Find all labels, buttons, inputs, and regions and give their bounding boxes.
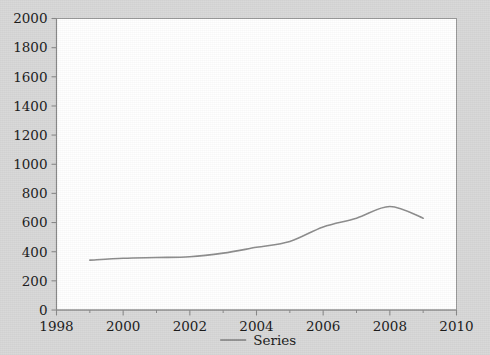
y-tick-label: 400 xyxy=(22,244,48,260)
y-tick-label: 2000 xyxy=(13,10,47,26)
x-tick-label: 2000 xyxy=(106,318,140,334)
x-tick-label: 2008 xyxy=(373,318,407,334)
y-tick-label: 800 xyxy=(22,185,48,201)
x-tick-label: 2006 xyxy=(306,318,340,334)
y-tick-label: 600 xyxy=(22,214,48,230)
x-tick-label: 2002 xyxy=(173,318,207,334)
line-chart-canvas: 0200400600800100012001400160018002000 19… xyxy=(0,0,490,355)
y-tick-label: 0 xyxy=(39,302,48,318)
y-tick-label: 1800 xyxy=(13,39,47,55)
x-tick-label: 1998 xyxy=(39,318,73,334)
chart-figure: 0200400600800100012001400160018002000 19… xyxy=(0,0,490,355)
y-tick-label: 1600 xyxy=(13,69,47,85)
legend-label: Series xyxy=(253,332,296,348)
x-tick-label: 2010 xyxy=(439,318,473,334)
y-tick-label: 1400 xyxy=(13,98,47,114)
y-tick-label: 1000 xyxy=(13,156,47,172)
y-tick-label: 200 xyxy=(22,273,48,289)
plot-area xyxy=(57,19,457,311)
y-tick-label: 1200 xyxy=(13,127,47,143)
